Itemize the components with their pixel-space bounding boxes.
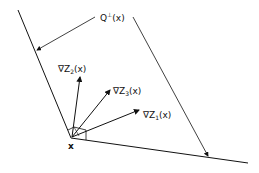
prefix: ∇Z [58,64,70,74]
arg: (x) [74,64,86,74]
prefix: ∇Z [143,110,155,120]
vector-grad-z1 [72,110,139,137]
cone-boundary-bottom [71,138,248,163]
grad-z1-label: ∇Z1(x) [143,111,171,121]
point-x-label: x [68,142,74,151]
grad-z2-label: ∇Z2(x) [58,65,86,75]
prefix: ∇Z [113,86,125,96]
grad-z3-label: ∇Z3(x) [113,87,141,97]
arg: (x) [159,110,171,120]
q-perp-label: Q⊥(x) [100,12,125,23]
q-arg: (x) [112,13,124,23]
dimension-arrow-right [133,17,208,156]
arg: (x) [129,86,141,96]
dimension-arrow-left [37,17,95,50]
